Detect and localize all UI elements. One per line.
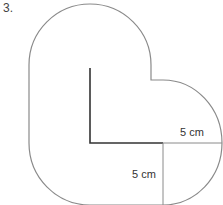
composite-shape-diagram xyxy=(0,0,223,205)
horizontal-radius-label: 5 cm xyxy=(180,126,204,138)
vertical-radius-label: 5 cm xyxy=(132,168,156,180)
l-shape-centers xyxy=(90,68,163,143)
shape-outline xyxy=(29,4,222,205)
